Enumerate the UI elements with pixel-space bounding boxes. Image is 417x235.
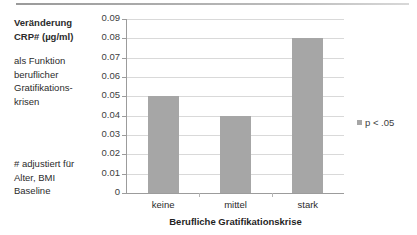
y-tick-mark: [122, 193, 126, 194]
y-tick-mark: [122, 154, 126, 155]
y-axis-tick-label: 0.04: [78, 109, 120, 120]
y-axis-tick-label: 0.08: [78, 31, 120, 42]
bar-chart: 0.090.080.070.060.050.040.030.020.010kei…: [0, 0, 417, 235]
y-tick-mark: [122, 58, 126, 59]
x-tick-mark: [199, 193, 200, 197]
y-axis-tick-label: 0.03: [78, 128, 120, 139]
y-tick-mark: [122, 19, 126, 20]
y-axis-tick-label: 0.02: [78, 147, 120, 158]
legend: p < .05: [357, 117, 394, 128]
plot-area: [127, 19, 344, 193]
y-axis-tick-label: 0.06: [78, 70, 120, 81]
bar-stark: [292, 38, 323, 193]
x-axis-tick-label-mittel: mittel: [205, 199, 267, 210]
bar-keine: [148, 96, 179, 193]
x-axis-title: Berufliche Gratifikationskrise: [127, 216, 344, 227]
x-tick-mark: [272, 193, 273, 197]
gridline: [127, 19, 344, 20]
y-axis-line: [126, 19, 127, 194]
y-tick-mark: [122, 96, 126, 97]
y-tick-mark: [122, 77, 126, 78]
x-axis-tick-label-stark: stark: [277, 199, 339, 210]
y-axis-tick-label: 0.05: [78, 89, 120, 100]
y-axis-tick-label: 0.09: [78, 12, 120, 23]
legend-label: p < .05: [365, 117, 394, 128]
x-axis-tick-label-keine: keine: [132, 199, 194, 210]
legend-swatch-icon: [357, 120, 362, 125]
y-axis-tick-label: 0.07: [78, 51, 120, 62]
y-axis-tick-label: 0.01: [78, 167, 120, 178]
y-tick-mark: [122, 38, 126, 39]
y-tick-mark: [122, 174, 126, 175]
y-tick-mark: [122, 116, 126, 117]
y-axis-tick-label: 0: [78, 186, 120, 197]
y-tick-mark: [122, 135, 126, 136]
x-axis-line: [126, 193, 344, 194]
bar-mittel: [220, 116, 251, 193]
